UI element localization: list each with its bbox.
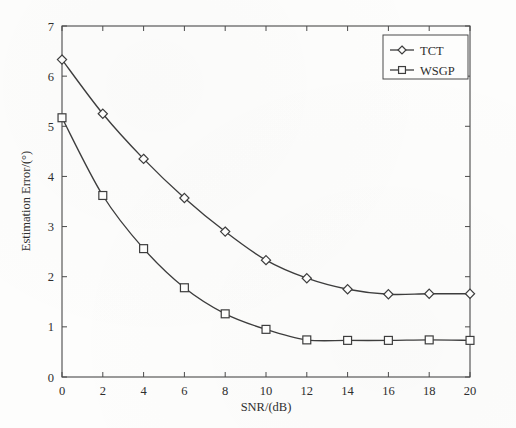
y-tick-label: 7	[48, 20, 54, 34]
x-tick-label: 16	[382, 384, 395, 398]
square-marker-icon	[466, 336, 474, 344]
diamond-marker-icon	[302, 274, 311, 283]
x-tick-label: 12	[301, 384, 314, 398]
data-series-layer	[57, 55, 474, 344]
x-tick-label: 0	[59, 384, 65, 398]
square-marker-icon	[58, 114, 66, 122]
diamond-marker-icon	[261, 256, 270, 265]
line-chart: 02468101214161820 01234567 SNR/(dB) Esti…	[0, 0, 516, 428]
diamond-marker-icon	[343, 285, 352, 294]
series-line	[62, 118, 470, 341]
x-tick-label: 18	[423, 384, 436, 398]
square-marker-icon	[399, 67, 406, 74]
y-tick-label: 3	[48, 220, 54, 234]
y-tick-label: 6	[48, 70, 54, 84]
diamond-marker-icon	[384, 290, 393, 299]
square-marker-icon	[344, 336, 352, 344]
square-marker-icon	[99, 192, 107, 200]
legend-label: WSGP	[420, 64, 455, 78]
square-marker-icon	[140, 245, 148, 253]
x-tick-label: 4	[140, 384, 147, 398]
series-tct	[57, 55, 474, 299]
y-axis-tick-labels: 01234567	[48, 20, 55, 385]
y-tick-label: 1	[48, 320, 54, 334]
diamond-marker-icon	[425, 289, 434, 298]
legend-label: TCT	[420, 44, 444, 58]
y-tick-label: 4	[48, 170, 55, 184]
y-axis-title: Estimation Error/(°)	[19, 151, 33, 251]
y-tick-label: 0	[48, 371, 54, 385]
x-tick-label: 14	[341, 384, 354, 398]
square-marker-icon	[425, 336, 433, 344]
x-tick-label: 2	[100, 384, 106, 398]
x-axis-title: SNR/(dB)	[241, 400, 292, 414]
square-marker-icon	[180, 284, 188, 292]
x-tick-label: 6	[181, 384, 187, 398]
chart-legend[interactable]: TCTWSGP	[383, 35, 468, 79]
x-tick-label: 8	[222, 384, 228, 398]
x-tick-label: 20	[464, 384, 477, 398]
square-marker-icon	[262, 325, 270, 333]
x-tick-label: 10	[260, 384, 273, 398]
x-axis-tick-labels: 02468101214161820	[59, 384, 476, 398]
square-marker-icon	[221, 310, 229, 318]
square-marker-icon	[303, 336, 311, 344]
y-tick-label: 5	[48, 120, 54, 134]
chart-page: 02468101214161820 01234567 SNR/(dB) Esti…	[0, 0, 516, 428]
square-marker-icon	[384, 336, 392, 344]
y-tick-label: 2	[48, 270, 54, 284]
diamond-marker-icon	[465, 289, 474, 298]
series-wsgp	[58, 114, 474, 345]
